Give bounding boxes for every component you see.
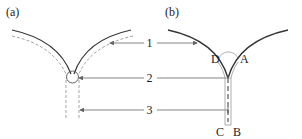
point-A: A (240, 52, 249, 66)
diagram-canvas: (a) 1 2 3 (0, 0, 302, 139)
point-D: D (211, 52, 220, 66)
callout-leaders (79, 43, 228, 113)
callout-3: 3 (147, 103, 153, 117)
callout-2: 2 (147, 71, 153, 85)
diagram: (a) 1 2 3 (0, 0, 302, 139)
panel-b-label: (b) (165, 5, 179, 19)
panel-a-label: (a) (6, 5, 19, 19)
point-C: C (216, 125, 224, 139)
callout-1: 1 (147, 36, 153, 50)
panel-b-figure (168, 30, 288, 125)
point-B: B (233, 125, 241, 139)
